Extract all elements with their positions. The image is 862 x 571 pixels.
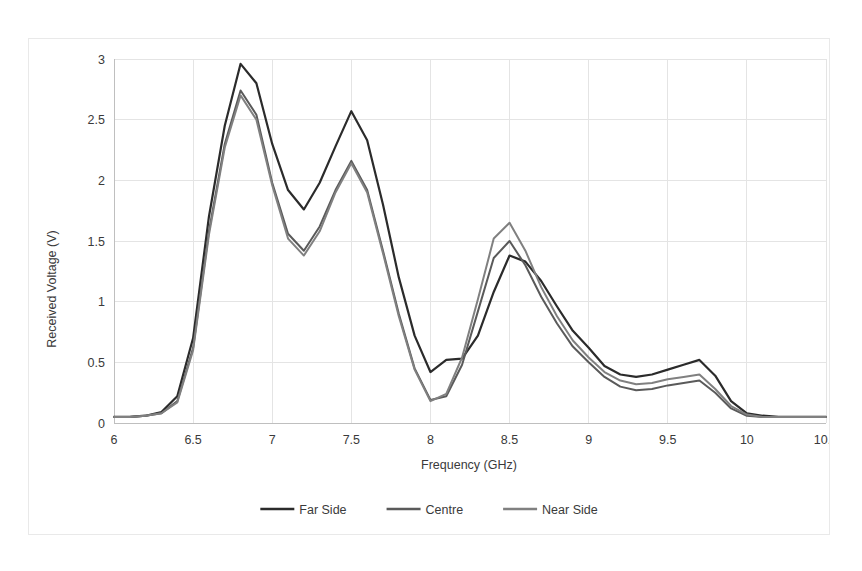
series-line-far-side xyxy=(114,64,826,417)
y-tick-label: 2 xyxy=(98,174,105,188)
y-tick-label: 3 xyxy=(98,53,105,67)
y-axis-title: Received Voltage (V) xyxy=(45,230,59,347)
x-tick-label: 7.5 xyxy=(343,433,360,447)
x-tick-label: 8.5 xyxy=(501,433,518,447)
x-tick-label: 6 xyxy=(111,433,118,447)
x-tick-label: 7 xyxy=(269,433,276,447)
y-tick-label: 0.5 xyxy=(88,356,105,370)
y-tick-label: 2.5 xyxy=(88,113,105,127)
y-tick-label: 1 xyxy=(98,295,105,309)
x-axis-tick-labels: 66.577.588.599.51010.5 xyxy=(111,433,829,447)
y-tick-label: 0 xyxy=(98,417,105,431)
legend-label-far-side: Far Side xyxy=(299,503,346,517)
x-tick-label: 10.5 xyxy=(814,433,829,447)
x-tick-label: 10 xyxy=(740,433,754,447)
x-tick-label: 9.5 xyxy=(659,433,676,447)
legend-label-centre: Centre xyxy=(426,503,464,517)
x-tick-label: 8 xyxy=(427,433,434,447)
series-line-centre xyxy=(114,91,826,417)
legend-label-near-side: Near Side xyxy=(542,503,598,517)
y-tick-label: 1.5 xyxy=(88,235,105,249)
x-tick-label: 6.5 xyxy=(184,433,201,447)
chart-legend: Far SideCentreNear Side xyxy=(260,503,597,517)
line-chart: 00.511.522.53 66.577.588.599.51010.5 Rec… xyxy=(29,39,829,534)
data-series-group xyxy=(114,64,826,417)
y-axis-tick-labels: 00.511.522.53 xyxy=(88,53,105,431)
gridlines xyxy=(114,59,826,423)
x-tick-label: 9 xyxy=(585,433,592,447)
x-axis-title: Frequency (GHz) xyxy=(421,458,517,472)
chart-figure: 00.511.522.53 66.577.588.599.51010.5 Rec… xyxy=(28,38,830,535)
